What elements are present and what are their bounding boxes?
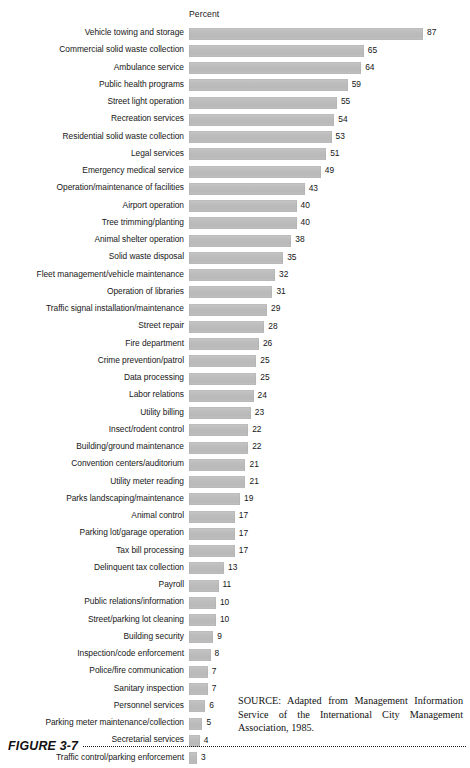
bar-category-label: Crime prevention/patrol bbox=[98, 356, 184, 365]
bar-value-label: 40 bbox=[301, 201, 310, 210]
bar-fill bbox=[189, 390, 254, 402]
bar-track bbox=[189, 545, 235, 557]
bar-row: Delinquent tax collection13 bbox=[0, 561, 470, 578]
bar-fill bbox=[189, 45, 364, 57]
bar-value-label: 3 bbox=[201, 753, 206, 762]
bar-value-label: 17 bbox=[239, 511, 248, 520]
bar-track bbox=[189, 631, 213, 643]
bar-category-label: Ambulance service bbox=[114, 63, 184, 72]
bar-fill bbox=[189, 28, 423, 40]
figure-number-label: FIGURE 3-7 bbox=[8, 739, 78, 753]
bar-category-label: Operation/maintenance of facilities bbox=[57, 183, 184, 192]
bar-track bbox=[189, 649, 211, 661]
bar-row: Residential solid waste collection53 bbox=[0, 130, 470, 147]
bar-track bbox=[189, 580, 219, 592]
bar-value-label: 40 bbox=[301, 218, 310, 227]
bar-row: Public health programs59 bbox=[0, 78, 470, 95]
bar-fill bbox=[189, 148, 326, 160]
bar-row: Labor relations24 bbox=[0, 388, 470, 405]
bar-track bbox=[189, 97, 337, 109]
bar-category-label: Insect/rodent control bbox=[109, 425, 184, 434]
bar-track bbox=[189, 235, 291, 247]
bar-value-label: 49 bbox=[325, 166, 334, 175]
bar-row: Data processing25 bbox=[0, 371, 470, 388]
bar-value-label: 59 bbox=[352, 80, 361, 89]
bar-category-label: Delinquent tax collection bbox=[94, 563, 184, 572]
bar-row: Utility meter reading21 bbox=[0, 475, 470, 492]
bar-value-label: 87 bbox=[427, 28, 436, 37]
bar-row: Payroll11 bbox=[0, 578, 470, 595]
bar-row: Crime prevention/patrol25 bbox=[0, 354, 470, 371]
bar-fill bbox=[189, 666, 208, 678]
bar-row: Public relations/information10 bbox=[0, 595, 470, 612]
bar-fill bbox=[189, 493, 240, 505]
bar-track bbox=[189, 114, 334, 126]
bar-fill bbox=[189, 718, 202, 730]
bar-fill bbox=[189, 131, 332, 143]
bar-value-label: 6 bbox=[209, 701, 214, 710]
bar-value-label: 9 bbox=[217, 632, 222, 641]
bar-row: Parks landscaping/maintenance19 bbox=[0, 492, 470, 509]
bar-category-label: Legal services bbox=[131, 149, 184, 158]
bar-category-label: Data processing bbox=[124, 373, 184, 382]
bar-row: Traffic control/parking enforcement3 bbox=[0, 751, 470, 768]
bar-row: Solid waste disposal35 bbox=[0, 250, 470, 267]
bar-fill bbox=[189, 528, 235, 540]
bar-category-label: Personnel services bbox=[114, 701, 184, 710]
bar-category-label: Tax bill processing bbox=[116, 546, 184, 555]
bar-category-label: Vehicle towing and storage bbox=[85, 28, 184, 37]
bar-row: Fleet management/vehicle maintenance32 bbox=[0, 268, 470, 285]
bar-category-label: Sanitary inspection bbox=[114, 684, 184, 693]
bar-value-label: 19 bbox=[244, 494, 253, 503]
bar-fill bbox=[189, 183, 305, 195]
bar-row: Airport operation40 bbox=[0, 199, 470, 216]
bar-track bbox=[189, 338, 259, 350]
bar-category-label: Building/ground maintenance bbox=[76, 442, 184, 451]
bar-track bbox=[189, 390, 254, 402]
bar-track bbox=[189, 131, 332, 143]
bar-row: Inspection/code enforcement8 bbox=[0, 647, 470, 664]
bar-fill bbox=[189, 235, 291, 247]
bar-row: Ambulance service64 bbox=[0, 61, 470, 78]
bar-fill bbox=[189, 511, 235, 523]
bar-track bbox=[189, 511, 235, 523]
bar-value-label: 28 bbox=[268, 322, 277, 331]
bar-category-label: Animal control bbox=[131, 511, 184, 520]
bar-row: Fire department26 bbox=[0, 337, 470, 354]
bar-row: Tax bill processing17 bbox=[0, 544, 470, 561]
bar-value-label: 10 bbox=[220, 598, 229, 607]
bar-category-label: Public relations/information bbox=[84, 597, 184, 606]
bar-value-label: 38 bbox=[295, 235, 304, 244]
bar-track bbox=[189, 424, 248, 436]
bar-category-label: Emergency medical service bbox=[82, 166, 184, 175]
bar-fill bbox=[189, 355, 256, 367]
bar-value-label: 55 bbox=[341, 97, 350, 106]
bar-fill bbox=[189, 683, 208, 695]
bar-row: Utility billing23 bbox=[0, 406, 470, 423]
bar-fill bbox=[189, 373, 256, 385]
bar-track bbox=[189, 459, 245, 471]
bar-value-label: 7 bbox=[212, 667, 217, 676]
bar-value-label: 64 bbox=[365, 63, 374, 72]
bar-fill bbox=[189, 200, 297, 212]
bar-fill bbox=[189, 252, 283, 264]
bar-fill bbox=[189, 97, 337, 109]
figure-caption: FIGURE 3-7 bbox=[8, 738, 466, 753]
bar-track bbox=[189, 752, 197, 764]
bar-category-label: Parking meter maintenance/collection bbox=[45, 718, 184, 727]
bar-row: Legal services51 bbox=[0, 147, 470, 164]
bar-row: Street light operation55 bbox=[0, 95, 470, 112]
bar-category-label: Payroll bbox=[159, 580, 184, 589]
bar-fill bbox=[189, 79, 348, 91]
bar-category-label: Fire department bbox=[125, 339, 184, 348]
bar-category-label: Inspection/code enforcement bbox=[77, 649, 184, 658]
bar-value-label: 11 bbox=[223, 580, 232, 589]
bar-fill bbox=[189, 631, 213, 643]
bar-track bbox=[189, 62, 361, 74]
bar-category-label: Traffic control/parking enforcement bbox=[56, 753, 184, 762]
bar-value-label: 22 bbox=[252, 442, 261, 451]
bar-row: Convention centers/auditorium21 bbox=[0, 457, 470, 474]
bar-row: Building/ground maintenance22 bbox=[0, 440, 470, 457]
bar-row: Vehicle towing and storage87 bbox=[0, 26, 470, 43]
bar-track bbox=[189, 373, 256, 385]
